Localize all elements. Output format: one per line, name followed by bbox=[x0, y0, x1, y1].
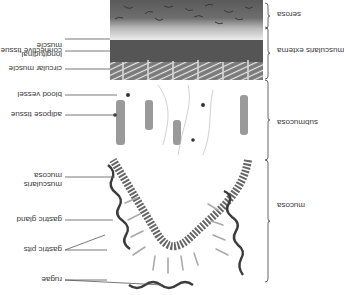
label-circular-muscle: circular muscle bbox=[9, 64, 62, 73]
label-gastric-gland: gastric gland bbox=[17, 215, 62, 224]
label-muscularis-mucosa: muscularis mucosa bbox=[24, 171, 62, 189]
label-rugae: rugae bbox=[42, 275, 62, 284]
label-gastric-pits: gastric pits bbox=[24, 245, 62, 254]
outer-layers bbox=[110, 0, 263, 80]
layer-brackets bbox=[265, 3, 270, 282]
submucosa-region bbox=[113, 85, 248, 155]
label-connective-tissue: connective tissue bbox=[1, 46, 62, 55]
label-mucosa: mucosa bbox=[277, 201, 305, 210]
label-adipose-tissue: adipose tissue bbox=[11, 110, 62, 119]
label-serosa: serosa bbox=[277, 10, 301, 19]
mucosa-region bbox=[108, 160, 248, 288]
label-muscularis-externa: muscularis externa bbox=[277, 46, 344, 55]
label-line: muscularis bbox=[24, 180, 62, 189]
label-blood-vessel: blood vessel bbox=[18, 90, 62, 99]
label-line: mucosa bbox=[24, 171, 62, 180]
label-submucosa: submucosa bbox=[277, 118, 318, 127]
